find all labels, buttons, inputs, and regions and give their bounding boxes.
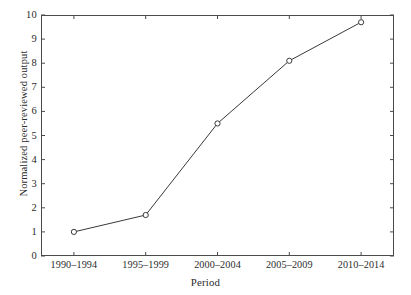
x-axis-tick-label: 1990–1994 [51,259,98,270]
data-markers [71,20,363,235]
data-point-marker [215,121,220,126]
y-axis-tick-label: 8 [9,58,37,69]
y-axis-tick-label: 4 [9,155,37,166]
y-axis-tick-label: 5 [9,131,37,142]
x-axis-title: Period [0,276,411,288]
x-axis-tick-label: 2005–2009 [266,259,313,270]
caption-remnant [150,288,411,295]
y-axis-tick-label: 3 [9,179,37,190]
plot-area [41,15,394,256]
data-line [74,22,361,232]
y-axis-tick-label: 6 [9,106,37,117]
y-axis-tick-label: 7 [9,82,37,93]
data-point-marker [71,229,76,234]
y-axis-tick-label: 9 [9,34,37,45]
axis-ticks [41,15,394,256]
x-axis-tick-label: 2010–2014 [338,259,385,270]
x-axis-tick-label: 1995–1999 [122,259,169,270]
data-point-marker [359,20,364,25]
x-axis-tick-label: 2000–2004 [194,259,241,270]
y-axis-tick-label: 10 [9,10,37,21]
data-point-marker [143,212,148,217]
data-point-marker [287,58,292,63]
y-axis-tick-labels: 012345678910 [5,0,37,295]
figure-container: Normalized peer-reviewed output 01234567… [0,0,411,295]
y-axis-tick-label: 2 [9,203,37,214]
y-axis-tick-label: 1 [9,227,37,238]
x-axis-tick-labels: 1990–19941995–19992000–20042005–20092010… [0,259,411,275]
